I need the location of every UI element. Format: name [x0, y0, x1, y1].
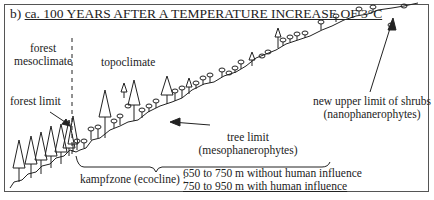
kampfzone-label: kampfzone (ecocline) :	[80, 173, 186, 186]
forest-limit-label: forest limit	[10, 95, 61, 108]
kampfzone-ranges: 650 to 750 m without human influence 750…	[183, 167, 362, 193]
tree-limit-label: tree limit (mesophanerophytes)	[194, 131, 302, 157]
tree-limit-line1: tree limit	[194, 131, 302, 144]
range-with-human: 750 to 950 m with human influence	[183, 180, 362, 193]
forest-mesoclimate-label: forest mesoclimate	[14, 42, 72, 68]
forest-mesoclimate-line1: forest	[14, 42, 72, 55]
range-without-human: 650 to 750 m without human influence	[183, 167, 362, 180]
shrub-icon	[74, 4, 407, 150]
shrub-limit-arrow	[370, 22, 392, 92]
kampfzone-text: kampfzone (ecocline)	[80, 173, 180, 185]
shrub-limit-line2: (nanophanerophytes)	[312, 108, 432, 121]
tree-limit-line2: (mesophanerophytes)	[194, 144, 302, 157]
forest-mesoclimate-line2: mesoclimate	[14, 55, 72, 68]
shrub-limit-line1: new upper limit of shrubs	[312, 95, 432, 108]
shrub-limit-label: new upper limit of shrubs (nanophaneroph…	[312, 95, 432, 121]
topoclimate-label: topoclimate	[101, 56, 155, 69]
